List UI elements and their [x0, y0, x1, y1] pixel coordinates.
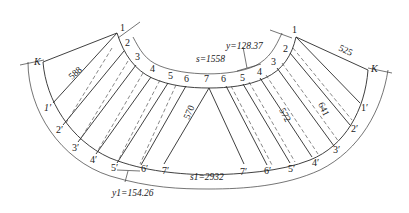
edge-length-left: 588 — [67, 64, 84, 81]
left-top-edge — [43, 33, 117, 62]
point-label: 4 — [150, 63, 155, 74]
outer-chord-dim — [117, 170, 140, 171]
corner-label-left: K — [33, 56, 42, 67]
point-label: 3′ — [333, 144, 340, 155]
point-label: 6 — [221, 73, 226, 84]
point-label: 3′ — [72, 142, 79, 153]
point-label: 4′ — [312, 157, 319, 168]
mid-length-right-2: 572 — [277, 106, 293, 123]
point-label: 2′ — [351, 123, 358, 134]
mid-length-left: 570 — [182, 104, 197, 121]
point-label: 1 — [292, 24, 297, 35]
inner-arc-dimension: s=1558 — [196, 54, 225, 64]
corner-label-right: K — [370, 63, 379, 74]
point-label: 1 — [120, 22, 125, 33]
point-label: 4′ — [90, 154, 97, 165]
point-label: 4 — [257, 66, 262, 77]
point-label: 3 — [135, 51, 140, 62]
point-label: 5′ — [288, 163, 295, 174]
outer-chord-dimension: y1=154.26 — [111, 188, 154, 198]
point-label: 7 — [204, 73, 209, 84]
point-label: 3 — [271, 56, 276, 67]
point-label: 5 — [240, 72, 245, 83]
point-label: 6 — [184, 73, 189, 84]
point-label: 1′ — [361, 102, 368, 113]
point-label: 7′ — [162, 165, 169, 176]
left-dashed-lines — [66, 48, 176, 164]
inner-chord-dimension: y=128.37 — [225, 41, 264, 51]
outer-arc-dimension: s1=2932 — [190, 172, 224, 182]
point-label: 6′ — [264, 165, 271, 176]
edge-length-right: 525 — [337, 43, 354, 58]
point-label: 5 — [168, 70, 173, 81]
developed-pattern-diagram: 1 2 3 4 5 6 7 1 2 3 4 5 6 1′ 2′ 3′ 4′ 5′… — [0, 0, 409, 213]
point-label: 2 — [125, 37, 130, 48]
point-label: 5′ — [111, 162, 118, 173]
extension-line-right-1 — [270, 30, 292, 38]
point-label: 6′ — [141, 163, 148, 174]
point-label: 7′ — [240, 166, 247, 177]
point-label: 2 — [283, 43, 288, 54]
point-label: 1′ — [44, 102, 52, 113]
point-label: 2′ — [56, 124, 63, 135]
mid-length-right-1: 641 — [316, 101, 331, 118]
